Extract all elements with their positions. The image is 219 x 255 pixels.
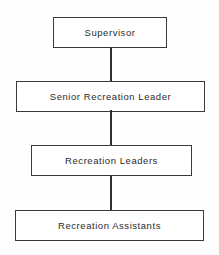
org-node-label: Supervisor — [85, 28, 136, 38]
connector-line-senior-recreation-leader-to-recreation-leaders — [110, 110, 112, 146]
org-chart: Supervisor Senior Recreation Leader Recr… — [0, 0, 219, 255]
org-node-label: Recreation Assistants — [58, 221, 161, 231]
org-node-label: Senior Recreation Leader — [50, 92, 171, 102]
org-node-recreation-assistants[interactable]: Recreation Assistants — [15, 210, 204, 241]
connector-line-supervisor-to-senior-recreation-leader — [110, 47, 112, 82]
connector-line-recreation-leaders-to-recreation-assistants — [110, 175, 112, 211]
org-node-recreation-leaders[interactable]: Recreation Leaders — [31, 145, 192, 176]
org-node-label: Recreation Leaders — [65, 156, 158, 166]
org-node-senior-recreation-leader[interactable]: Senior Recreation Leader — [16, 81, 205, 112]
org-node-supervisor[interactable]: Supervisor — [53, 17, 167, 48]
